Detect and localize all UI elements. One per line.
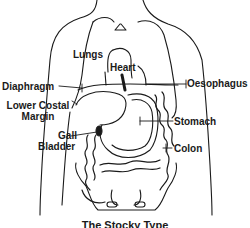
label-lungs: Lungs — [73, 49, 103, 60]
label-gall-bladder-line2: Bladder — [38, 141, 75, 152]
label-diaphragm: Diaphragm — [2, 81, 54, 92]
pelvis — [76, 163, 177, 210]
label-gall-bladder-line1: Gall — [47, 130, 77, 141]
colon — [82, 92, 174, 203]
diagram-caption: The Stocky Type — [0, 219, 250, 228]
label-oesophagus: Oesophagus — [187, 78, 248, 89]
stomach — [100, 94, 158, 158]
label-lower-costal-margin: Lower Costal Margin — [4, 100, 72, 122]
label-lower-costal-line2: Margin — [4, 111, 72, 122]
diaphragm — [78, 75, 178, 90]
label-stomach: Stomach — [174, 116, 216, 127]
label-lower-costal-line1: Lower Costal — [4, 100, 72, 111]
gall-bladder — [96, 126, 102, 136]
label-colon: Colon — [174, 143, 202, 154]
label-heart: Heart — [110, 62, 136, 73]
